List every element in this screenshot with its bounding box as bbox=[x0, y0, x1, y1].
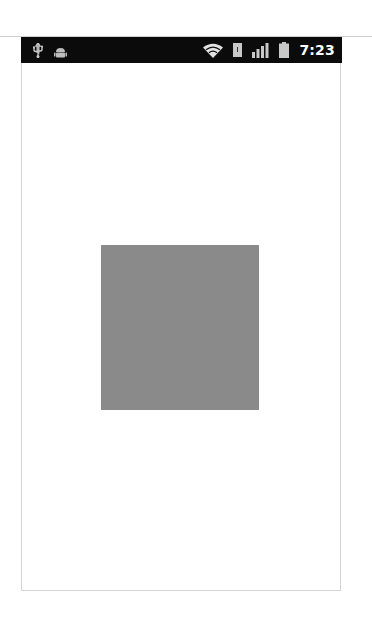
status-bar: 7:23 bbox=[21, 37, 342, 63]
battery-icon bbox=[279, 42, 289, 58]
signal-icon bbox=[252, 43, 269, 58]
usb-icon bbox=[33, 43, 43, 58]
notification-icons bbox=[33, 43, 67, 58]
clock: 7:23 bbox=[299, 42, 335, 58]
wifi-icon bbox=[203, 43, 223, 58]
android-debug-icon bbox=[54, 44, 67, 56]
gray-square bbox=[101, 245, 259, 410]
system-icons: 7:23 bbox=[203, 42, 335, 58]
sd-card-icon bbox=[233, 43, 242, 57]
